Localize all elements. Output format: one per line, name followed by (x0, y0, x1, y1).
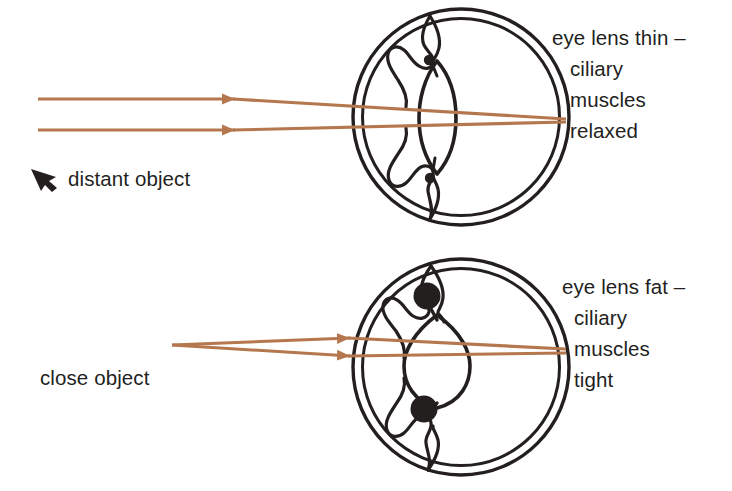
close-ray-top-segment-2 (348, 338, 566, 349)
close-object-label: close object (40, 362, 149, 393)
lens-fat (404, 315, 470, 408)
annotation-close-vision: eye lens fat – ciliary muscles tight (562, 271, 685, 395)
close-ray-bottom-segment-1 (172, 345, 350, 356)
annotation-distant-line-3: muscles (570, 84, 686, 115)
annotation-close-line-1: eye lens fat – (562, 271, 685, 302)
ciliary-muscle-dot-top-close (414, 283, 441, 310)
annotation-close-line-4: tight (574, 364, 685, 395)
ciliary-muscle-dot-bottom-close (411, 396, 438, 423)
lens-thin (419, 61, 456, 174)
annotation-close-line-2: ciliary (574, 302, 685, 333)
ray-top-segment-2 (233, 99, 566, 119)
annotation-distant-line-1: eye lens thin – (552, 22, 686, 53)
annotation-distant-line-4: relaxed (570, 115, 686, 146)
eye-accommodation-figure: eye lens thin – ciliary muscles relaxed … (0, 0, 732, 491)
close-ray-top-segment-1 (172, 338, 350, 345)
distant-object-label: distant object (68, 163, 190, 194)
annotation-distant-line-2: ciliary (570, 53, 686, 84)
close-vision-diagram (172, 259, 569, 475)
ray-bottom-segment-2 (233, 122, 566, 130)
light-rays-close (172, 338, 566, 356)
eyeball-outline-close (353, 259, 569, 475)
annotation-distant-vision: eye lens thin – ciliary muscles relaxed (552, 22, 686, 146)
annotation-close-line-3: muscles (574, 333, 685, 364)
close-ray-bottom-segment-2 (348, 353, 566, 356)
ciliary-muscle-dot-bottom-distant (425, 173, 435, 183)
light-rays-distant (38, 99, 566, 130)
arrow-up-left-icon (31, 169, 57, 192)
ciliary-muscle-dot-top-distant (424, 55, 434, 65)
